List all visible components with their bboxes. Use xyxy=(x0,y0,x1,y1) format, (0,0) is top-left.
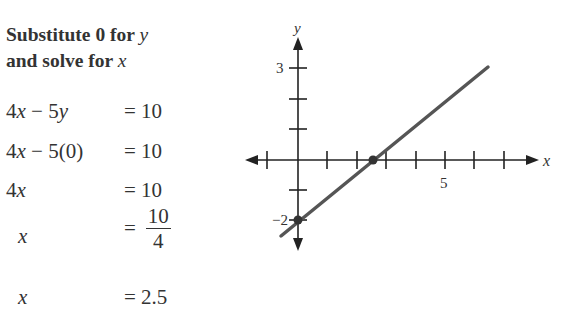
y-axis-up-arrow-icon xyxy=(293,37,303,50)
x-axis-right-arrow-icon xyxy=(526,155,539,165)
y-tick-label-neg2: −2 xyxy=(272,212,288,228)
y-axis-down-arrow-icon xyxy=(293,238,303,251)
x-axis-label: x xyxy=(542,152,550,169)
graph-line xyxy=(281,67,488,236)
y-intercept-point xyxy=(294,216,303,225)
x-intercept-point xyxy=(369,156,378,165)
x-axis-left-arrow-icon xyxy=(245,155,258,165)
coordinate-graph: x y 5 3 −2 xyxy=(0,0,566,319)
y-tick-label-3: 3 xyxy=(276,60,284,76)
x-tick-label-5: 5 xyxy=(440,175,448,191)
y-axis-label: y xyxy=(292,20,301,36)
